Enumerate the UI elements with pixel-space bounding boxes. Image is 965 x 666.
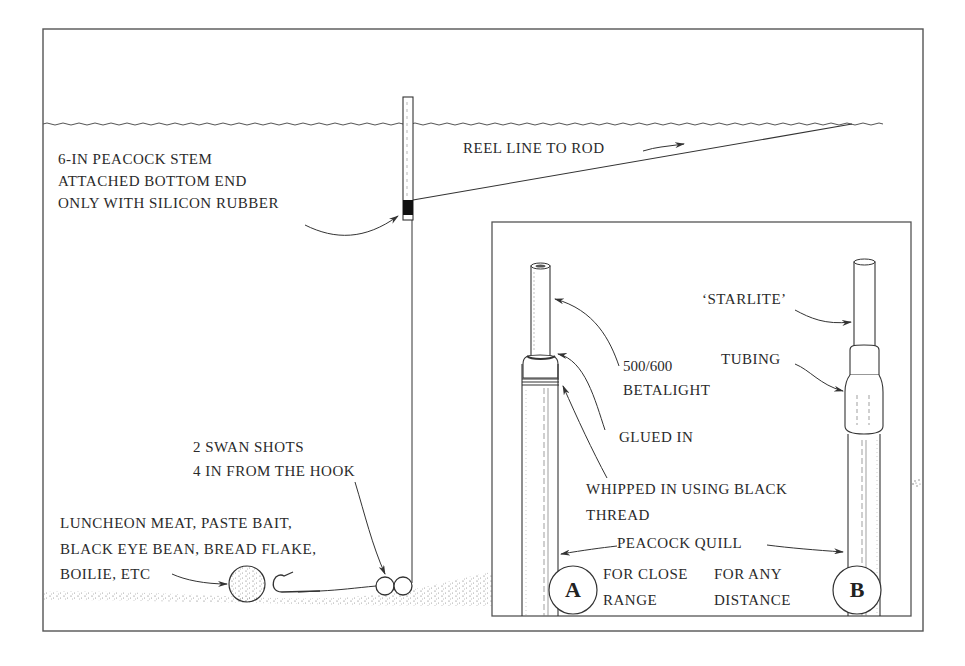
swan-shots [376, 577, 412, 595]
lake-bed-tuft [912, 479, 920, 486]
bait-label-line2: BLACK EYE BEAN, BREAD FLAKE, [60, 540, 317, 559]
fishing-rig-diagram: 6-IN PEACOCK STEM ATTACHED BOTTOM END ON… [0, 0, 965, 666]
variant-b-desc-line1: FOR ANY [714, 565, 782, 584]
variant-b-desc-line2: DISTANCE [714, 591, 791, 610]
shots-label-line2: 4 IN FROM THE HOOK [193, 462, 355, 481]
shots-label-line1: 2 SWAN SHOTS [193, 438, 304, 457]
variant-b-letter: B [833, 566, 881, 614]
glued-in-label: GLUED IN [619, 428, 693, 447]
starlite-label: ‘STARLITE’ [702, 290, 787, 309]
tubing-label: TUBING [721, 350, 781, 369]
float-label-line2: ATTACHED BOTTOM END [58, 172, 247, 191]
variant-a-desc-line1: FOR CLOSE [603, 565, 688, 584]
bait-ball [229, 566, 265, 602]
variant-a-letter: A [549, 566, 597, 614]
betalight-label-line1: 500/600 [623, 357, 672, 376]
hook [273, 572, 320, 592]
betalight-label-line2: BETALIGHT [623, 381, 710, 400]
float-label-line1: 6-IN PEACOCK STEM [58, 150, 212, 169]
reel-line [413, 124, 852, 200]
variant-a-desc-line2: RANGE [603, 591, 657, 610]
peacock-stem-float [403, 97, 413, 583]
bait-label-line1: LUNCHEON MEAT, PASTE BAIT, [60, 514, 292, 533]
water-surface-line [43, 123, 883, 125]
whipped-label-line1: WHIPPED IN USING BLACK [586, 480, 787, 499]
float-label-arrow [305, 216, 398, 235]
bait-label-line3: BOILIE, ETC [60, 565, 150, 584]
float-label-line3: ONLY WITH SILICON RUBBER [58, 194, 279, 213]
bait-label-arrow [172, 574, 227, 584]
reel-line-arrow [643, 144, 684, 151]
reel-line-label: REEL LINE TO ROD [463, 139, 604, 158]
shots-label-arrow [355, 482, 385, 574]
whipped-label-line2: THREAD [586, 506, 650, 525]
peacock-quill-label: PEACOCK QUILL [617, 534, 742, 553]
